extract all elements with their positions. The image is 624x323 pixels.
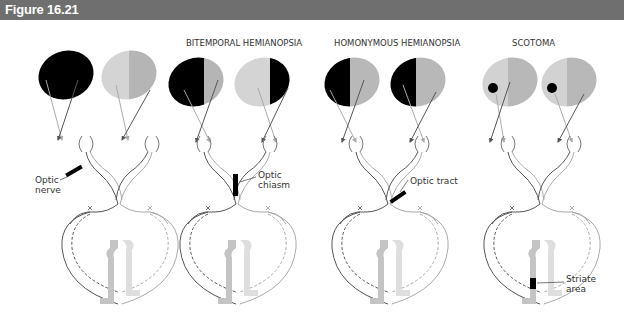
label-line-1: Optic <box>258 170 290 180</box>
label-line-2: chiasm <box>258 180 290 190</box>
left-eye-field <box>478 50 548 120</box>
label-line-1: Optic <box>35 175 61 185</box>
left-eye-field-blind <box>31 43 100 107</box>
scotoma-spot-left <box>488 83 498 93</box>
lesion-optic-nerve <box>65 165 83 177</box>
label-optic-tract: Optic tract <box>410 176 458 186</box>
label-line-2: area <box>566 284 596 294</box>
lesion-striate-area <box>530 278 536 289</box>
left-eye-field <box>160 50 244 120</box>
right-eye-field <box>537 50 607 120</box>
visual-fields <box>31 43 163 107</box>
left-eye-field <box>320 50 390 120</box>
lesion-optic-chiasm <box>233 174 238 196</box>
label-line-1: Striate <box>566 274 596 284</box>
right-eye-field <box>228 50 310 120</box>
label-line-2: nerve <box>35 185 61 195</box>
right-eye-field <box>386 50 456 120</box>
label-striate-area: Striate area <box>566 274 596 294</box>
panel-optic-nerve <box>31 43 178 304</box>
label-optic-nerve: Optic nerve <box>35 175 61 195</box>
right-eye-field <box>95 45 163 105</box>
label-line-1: Optic tract <box>410 176 458 186</box>
visual-pathway-diagram <box>0 0 624 323</box>
panel-scotoma <box>478 50 607 304</box>
label-optic-chiasm: Optic chiasm <box>258 170 290 190</box>
scotoma-spot-right <box>547 83 557 93</box>
